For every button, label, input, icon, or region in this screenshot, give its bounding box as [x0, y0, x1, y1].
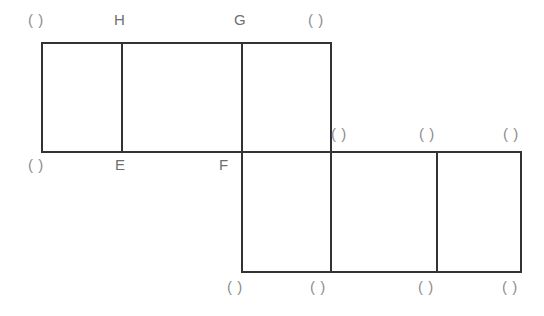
cube-net-figure: [0, 0, 544, 316]
vertex-label-G: G: [234, 12, 246, 27]
blank-vertex-label-middle-right-blank-3: ( ): [503, 126, 519, 141]
vertex-label-H: H: [114, 12, 125, 27]
blank-vertex-label-bottom-blank-1: ( ): [227, 279, 243, 294]
blank-vertex-label-top-left-blank: ( ): [28, 12, 44, 27]
blank-vertex-label-top-right-blank: ( ): [308, 12, 324, 27]
blank-vertex-label-bottom-blank-4: ( ): [502, 279, 518, 294]
vertex-label-E: E: [115, 157, 125, 172]
vertex-label-F: F: [219, 157, 228, 172]
blank-vertex-label-middle-right-blank-2: ( ): [419, 126, 435, 141]
blank-vertex-label-middle-right-blank-1: ( ): [331, 126, 347, 141]
blank-vertex-label-bottom-blank-2: ( ): [310, 279, 326, 294]
figure-line-group: [42, 43, 521, 272]
blank-vertex-label-bottom-blank-3: ( ): [418, 279, 434, 294]
blank-vertex-label-middle-left-blank: ( ): [28, 157, 44, 172]
